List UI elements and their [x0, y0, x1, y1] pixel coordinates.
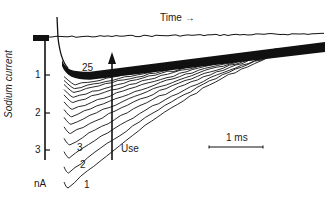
current-traces [35, 33, 325, 188]
y-tick-label-3: 3 [35, 145, 41, 155]
late-traces-band [62, 42, 325, 80]
unit-label: nA [34, 179, 46, 189]
time-label: Time → [160, 13, 195, 23]
trace-label-1: 1 [84, 180, 90, 190]
stimulus-artifact [57, 17, 68, 68]
scale-bar-label: 1 ms [226, 133, 248, 143]
sodium-current-figure: Time → Sodium current 1 2 3 nA 25 3 2 1 … [0, 0, 336, 203]
y-tick-label-1: 1 [35, 70, 41, 80]
trace-plot [0, 0, 336, 203]
use-label: Use [121, 144, 139, 154]
trace-label-2: 2 [80, 160, 86, 170]
y-axis-label: Sodium current [3, 50, 14, 118]
trace-label-3: 3 [77, 143, 83, 153]
y-tick-label-2: 2 [35, 108, 41, 118]
use-arrow-head [108, 52, 116, 64]
time-baseline-trace [35, 33, 324, 38]
trace-label-25: 25 [82, 63, 93, 73]
